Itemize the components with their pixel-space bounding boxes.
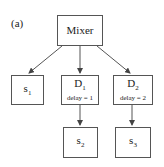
s2-index: 2 xyxy=(81,142,85,150)
mixer-node: Mixer xyxy=(57,15,103,46)
figure-label: (a) xyxy=(11,17,23,29)
s1-node: s1 xyxy=(11,75,44,105)
d1-delay: delay = 1 xyxy=(67,95,93,102)
edge-mixer-s1 xyxy=(29,46,62,73)
d2-index: 2 xyxy=(135,85,139,93)
s3-index: 3 xyxy=(133,142,137,150)
d1-node: D1 delay = 1 xyxy=(61,75,99,105)
s1-index: 1 xyxy=(28,89,32,97)
d1-index: 1 xyxy=(82,85,86,93)
s2-node: s2 xyxy=(63,127,98,158)
edge-mixer-d2 xyxy=(97,46,130,73)
d2-node: D2 delay = 2 xyxy=(113,75,153,105)
mixer-label: Mixer xyxy=(67,25,94,36)
s3-node: s3 xyxy=(115,127,151,158)
d2-delay: delay = 2 xyxy=(120,95,146,102)
